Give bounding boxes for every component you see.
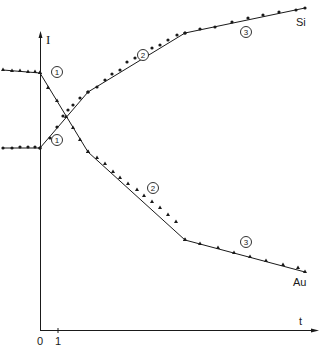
- series-label-si: Si: [296, 17, 306, 28]
- x-axis-label: t: [299, 316, 302, 327]
- series-line: [3, 70, 305, 272]
- dot-marker-icon: [294, 8, 297, 11]
- triangle-marker-icon: [78, 138, 82, 142]
- region-number: 2: [141, 51, 146, 60]
- triangle-marker-icon: [95, 156, 99, 160]
- triangle-marker-icon: [118, 176, 122, 180]
- dot-marker-icon: [261, 13, 264, 16]
- dot-marker-icon: [86, 90, 89, 93]
- dot-marker-icon: [38, 146, 41, 149]
- region-marker-1: 1: [52, 67, 63, 78]
- region-number: 3: [244, 28, 249, 37]
- triangle-marker-icon: [46, 86, 50, 90]
- region-number: 2: [151, 184, 156, 193]
- triangle-marker-icon: [264, 259, 268, 263]
- triangle-marker-icon: [135, 188, 139, 192]
- chart-svg: 112233: [0, 0, 320, 349]
- triangle-marker-icon: [18, 69, 22, 73]
- triangle-marker-icon: [174, 220, 178, 224]
- dot-marker-icon: [71, 103, 74, 106]
- dot-marker-icon: [33, 145, 36, 148]
- triangle-marker-icon: [33, 70, 37, 74]
- dot-marker-icon: [277, 10, 280, 13]
- triangle-marker-icon: [71, 126, 75, 130]
- x-tick-label-1: 1: [55, 336, 61, 347]
- chart-figure: 112233 I t 0 1 Si Au: [0, 0, 320, 349]
- triangle-marker-icon: [166, 213, 170, 217]
- dot-marker-icon: [78, 96, 81, 99]
- triangle-marker-icon: [1, 68, 5, 72]
- dot-marker-icon: [103, 78, 106, 81]
- dot-marker-icon: [198, 27, 201, 30]
- region-marker-1: 1: [52, 135, 63, 146]
- triangle-marker-icon: [248, 255, 252, 259]
- y-axis-arrow-icon: [39, 31, 43, 38]
- region-marker-3: 3: [241, 237, 252, 248]
- dot-marker-icon: [158, 43, 161, 46]
- triangle-marker-icon: [150, 200, 154, 204]
- region-number: 1: [55, 68, 60, 77]
- triangle-marker-icon: [38, 71, 42, 75]
- dot-marker-icon: [150, 46, 153, 49]
- region-marker-3: 3: [241, 27, 252, 38]
- triangle-marker-icon: [103, 162, 107, 166]
- region-marker-2: 2: [148, 183, 159, 194]
- series-si: [1, 6, 306, 149]
- dot-marker-icon: [118, 68, 121, 71]
- dot-marker-icon: [10, 146, 13, 149]
- series-au: [1, 68, 307, 274]
- region-number: 1: [55, 136, 60, 145]
- triangle-marker-icon: [158, 206, 162, 210]
- series-line: [3, 8, 305, 148]
- dot-marker-icon: [230, 20, 233, 23]
- dot-marker-icon: [26, 145, 29, 148]
- triangle-marker-icon: [126, 182, 130, 186]
- dot-marker-icon: [133, 56, 136, 59]
- dot-marker-icon: [183, 31, 186, 34]
- y-axis-label: I: [46, 34, 50, 45]
- dot-marker-icon: [61, 114, 64, 117]
- dot-marker-icon: [303, 6, 306, 9]
- dot-marker-icon: [18, 145, 21, 148]
- dot-marker-icon: [175, 33, 178, 36]
- triangle-marker-icon: [216, 246, 220, 250]
- annotation-layer: 112233: [52, 27, 252, 248]
- dot-marker-icon: [95, 85, 98, 88]
- triangle-marker-icon: [26, 70, 30, 74]
- dot-marker-icon: [213, 25, 216, 28]
- dot-marker-icon: [1, 146, 4, 149]
- x-axis-arrow-icon: [311, 329, 319, 333]
- triangle-marker-icon: [142, 194, 146, 198]
- triangle-marker-icon: [296, 266, 300, 270]
- dot-marker-icon: [66, 108, 69, 111]
- triangle-marker-icon: [111, 170, 115, 174]
- triangle-marker-icon: [281, 263, 285, 267]
- dot-marker-icon: [55, 125, 58, 128]
- dot-marker-icon: [110, 72, 113, 75]
- x-tick-label-0: 0: [37, 336, 43, 347]
- dot-marker-icon: [166, 38, 169, 41]
- region-number: 3: [244, 238, 249, 247]
- dot-marker-icon: [246, 16, 249, 19]
- series-label-au: Au: [293, 277, 306, 288]
- region-marker-2: 2: [138, 50, 149, 61]
- dot-marker-icon: [125, 60, 128, 63]
